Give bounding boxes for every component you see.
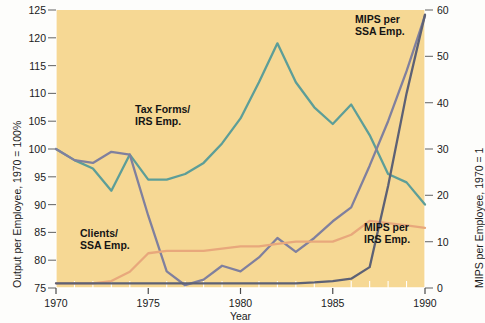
x-tick-1990: 1990 xyxy=(405,297,445,309)
y-tick-left-110: 110 xyxy=(14,87,46,99)
y-axis-title-left: Output per Employee, 1970 = 100% xyxy=(11,121,23,288)
x-axis-title: Year xyxy=(221,310,261,322)
x-tick-1980: 1980 xyxy=(221,297,261,309)
y-tick-right-30: 30 xyxy=(437,143,463,155)
y-tick-left-120: 120 xyxy=(14,32,46,44)
series-label-clients-ssa-emp: Clients/ SSA Emp. xyxy=(80,228,130,251)
x-tick-1970: 1970 xyxy=(36,297,76,309)
y-tick-left-125: 125 xyxy=(14,4,46,16)
series-label-mips-per-irs-emp: MIPS per IRS Emp. xyxy=(364,222,410,245)
y-tick-right-0: 0 xyxy=(437,282,463,294)
series-label-mips-per-ssa-emp: MIPS per SSA Emp. xyxy=(355,14,405,37)
y-axis-title-right: MIPS per Employee, 1970 = 1 xyxy=(473,148,485,288)
series-label-tax-forms-irs-emp: Tax Forms/ IRS Emp. xyxy=(135,104,190,127)
x-tick-1975: 1975 xyxy=(128,297,168,309)
y-tick-right-10: 10 xyxy=(437,236,463,248)
y-ticks-left xyxy=(48,10,56,288)
y-tick-right-50: 50 xyxy=(437,50,463,62)
y-ticks-right xyxy=(425,10,433,288)
series-line-tax-forms-irs-emp xyxy=(56,43,425,204)
y-tick-right-60: 60 xyxy=(437,4,463,16)
y-tick-left-115: 115 xyxy=(14,60,46,72)
y-tick-right-40: 40 xyxy=(437,97,463,109)
y-tick-right-20: 20 xyxy=(437,189,463,201)
x-ticks-major xyxy=(56,288,425,294)
x-tick-1985: 1985 xyxy=(313,297,353,309)
